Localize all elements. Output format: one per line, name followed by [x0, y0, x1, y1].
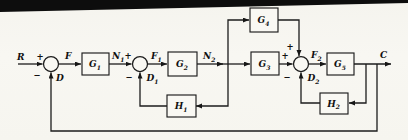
sum3-plus-left-sign: +	[281, 51, 288, 61]
sum3-plus-top-sign: +	[286, 42, 293, 52]
sum1-plus-sign: +	[36, 52, 43, 62]
wire-node-h1	[196, 64, 228, 106]
label-c: C	[380, 50, 388, 60]
scanned-diagram-page: G1 G2 G3 G4 G5 H1 H2 R F N1 F1 N2 F2 C D…	[0, 0, 408, 140]
label-f: F	[64, 51, 72, 61]
block-g3: G3	[251, 52, 279, 75]
sum1-minus-sign: −	[33, 70, 40, 80]
scan-edge-artifact	[0, 0, 408, 12]
summing-junction-1	[44, 57, 59, 72]
label-n2: N2	[202, 51, 215, 63]
label-d: D	[55, 73, 64, 83]
wire-node-g4	[228, 20, 249, 64]
sum2-plus-sign: +	[124, 51, 131, 61]
sum3-minus-sign: −	[283, 72, 290, 82]
label-f1: F1	[150, 51, 162, 63]
block-g5: G5	[327, 53, 354, 75]
block-g4: G4	[250, 8, 278, 32]
sum2-minus-sign: −	[125, 72, 132, 82]
block-h1: H1	[167, 95, 196, 117]
block-g1: G1	[82, 53, 109, 75]
summing-junction-3	[294, 57, 309, 72]
label-d1: D1	[146, 73, 159, 85]
label-r: R	[16, 52, 25, 62]
block-g2: G2	[168, 52, 197, 76]
label-n1: N1	[111, 51, 124, 63]
summing-junction-2	[133, 57, 148, 72]
label-f2: F2	[310, 50, 322, 62]
block-diagram: G1 G2 G3 G4 G5 H1 H2 R F N1 F1 N2 F2 C D…	[0, 0, 408, 140]
block-h2: H2	[320, 93, 348, 114]
label-d2: D2	[307, 73, 320, 85]
